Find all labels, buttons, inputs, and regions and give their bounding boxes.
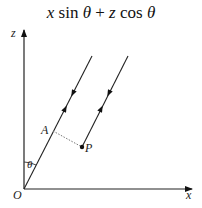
arrow-up-icon (61, 104, 69, 113)
diagram-canvas: z x O A P θ (0, 0, 202, 208)
z-axis-label: z (10, 26, 16, 40)
arrow-up-icon (97, 104, 105, 113)
arrow-down-icon (69, 89, 77, 98)
origin-label: O (13, 188, 22, 202)
ray-through-origin (24, 56, 92, 189)
point-p-label: P (84, 141, 93, 155)
ray-through-p (82, 56, 128, 147)
angle-theta-label: θ (27, 158, 33, 170)
point-p (80, 145, 84, 149)
point-a-label: A (40, 123, 49, 137)
perpendicular-a-p (53, 131, 82, 147)
x-axis-label: x (185, 188, 192, 202)
arrow-down-icon (105, 89, 113, 98)
